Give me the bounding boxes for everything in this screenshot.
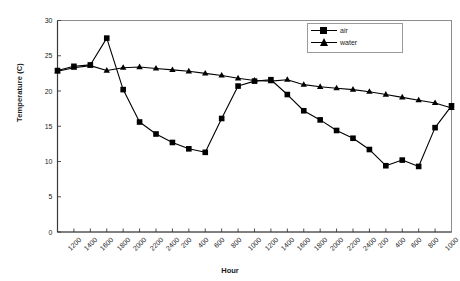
y-tick-label: 15: [27, 123, 53, 130]
y-tick-label: 5: [27, 193, 53, 200]
y-tick-label: 30: [27, 17, 53, 24]
legend-marker-triangle-icon: [311, 37, 337, 47]
chart-legend: air water: [307, 23, 403, 53]
y-tick-label: 0: [27, 229, 53, 236]
legend-label-air: air: [340, 27, 348, 34]
chart-figure: 302520151050 120014001600180020002200240…: [0, 0, 460, 281]
y-tick-label: 20: [27, 88, 53, 95]
legend-item-air: air: [308, 24, 402, 36]
y-axis-title: Temperature (C): [15, 48, 24, 138]
series-water: [54, 62, 454, 110]
series-air: [55, 35, 455, 169]
y-tick-label: 25: [27, 52, 53, 59]
legend-item-water: water: [308, 36, 402, 48]
y-tick-label: 10: [27, 158, 53, 165]
legend-marker-square-icon: [311, 25, 337, 35]
legend-label-water: water: [340, 39, 357, 46]
x-axis-title: Hour: [180, 266, 280, 275]
